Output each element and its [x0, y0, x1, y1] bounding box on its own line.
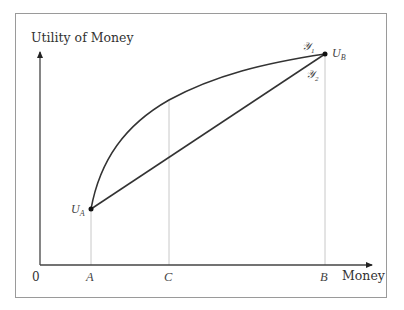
origin-label: 0 [32, 270, 40, 284]
utility-chord-line [91, 54, 325, 209]
utility-diagram: Utility of Money Money 0 A C B UA UB 𝒴1 … [0, 0, 404, 310]
tick-label-c: C [164, 270, 173, 284]
curve-label-2-sub: 2 [315, 75, 319, 83]
point-label-ub: UB [332, 46, 346, 62]
tick-label-a: A [85, 270, 94, 284]
point-ub [323, 52, 328, 57]
point-ua [89, 207, 94, 212]
point-label-ub-sub: B [341, 53, 346, 62]
curve-label-1: 𝒴1 [302, 40, 315, 55]
point-label-ua-sub: A [79, 209, 85, 218]
x-axis-label: Money [342, 268, 386, 283]
point-label-ua: UA [71, 202, 85, 218]
curve-label-2: 𝒴2 [306, 68, 319, 83]
y-axis-label: Utility of Money [31, 30, 135, 45]
tick-label-b: B [320, 270, 328, 284]
curve-label-1-sub: 1 [311, 47, 315, 55]
diagram-frame [16, 14, 387, 298]
